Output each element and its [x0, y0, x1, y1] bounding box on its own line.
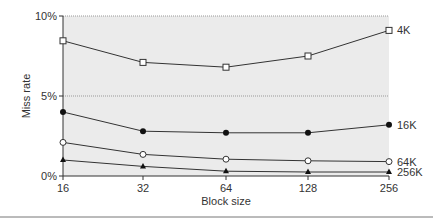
- marker-square: [305, 53, 311, 59]
- marker-open-circle: [386, 159, 392, 165]
- chart: 0%5%10%163264128256Block sizeMiss rate4K…: [0, 0, 433, 222]
- marker-filled-circle: [140, 128, 146, 134]
- marker-square: [386, 27, 392, 33]
- y-axis-label: Miss rate: [20, 74, 32, 119]
- marker-square: [223, 64, 229, 70]
- marker-open-circle: [60, 139, 66, 145]
- series-label: 16K: [397, 119, 417, 131]
- x-tick-label: 128: [299, 182, 317, 194]
- y-tick-label: 0%: [41, 170, 57, 182]
- marker-square: [140, 59, 146, 65]
- marker-filled-circle: [305, 130, 311, 136]
- x-tick-label: 16: [57, 182, 69, 194]
- marker-open-circle: [140, 151, 146, 157]
- miss-rate-chart: 0%5%10%163264128256Block sizeMiss rate4K…: [0, 0, 433, 222]
- marker-filled-circle: [60, 109, 66, 115]
- x-tick-label: 32: [137, 182, 149, 194]
- y-tick-label: 10%: [35, 10, 57, 22]
- marker-square: [60, 38, 66, 44]
- x-tick-label: 256: [380, 182, 398, 194]
- marker-open-circle: [223, 156, 229, 162]
- x-tick-label: 64: [220, 182, 232, 194]
- series-label: 4K: [397, 24, 411, 36]
- x-axis-label: Block size: [201, 195, 251, 207]
- y-tick-label: 5%: [41, 90, 57, 102]
- marker-filled-circle: [223, 130, 229, 136]
- series-label: 256K: [397, 166, 423, 178]
- marker-filled-circle: [386, 122, 392, 128]
- marker-open-circle: [305, 158, 311, 164]
